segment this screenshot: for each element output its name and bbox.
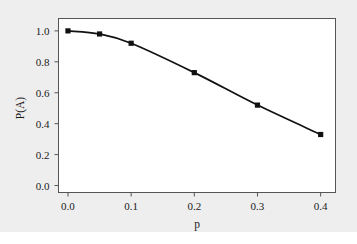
data-point-marker xyxy=(255,103,260,108)
y-axis-tick-labels: 0.00.20.40.60.81.0 xyxy=(36,25,50,192)
plot-panel xyxy=(59,19,336,193)
y-tick-label: 0.8 xyxy=(36,56,50,68)
data-point-marker xyxy=(97,31,102,36)
y-tick-label: 1.0 xyxy=(36,25,50,37)
x-axis-title: p xyxy=(194,218,200,231)
x-tick-label: 0.3 xyxy=(251,200,265,212)
data-point-marker xyxy=(129,41,134,46)
y-axis-ticks xyxy=(55,31,59,186)
x-axis-tick-labels: 0.00.10.20.30.4 xyxy=(61,200,328,212)
line-chart: 0.00.10.20.30.4 0.00.20.40.60.81.0 p P(A… xyxy=(0,0,357,232)
y-tick-label: 0.2 xyxy=(36,149,50,161)
data-point-marker xyxy=(192,70,197,75)
x-tick-label: 0.0 xyxy=(61,200,75,212)
y-tick-label: 0.0 xyxy=(36,180,50,192)
y-axis-title: P(A) xyxy=(14,97,27,120)
x-tick-label: 0.1 xyxy=(124,200,138,212)
x-axis-ticks xyxy=(68,193,321,197)
y-tick-label: 0.4 xyxy=(36,118,50,130)
data-point-marker xyxy=(65,28,70,33)
y-tick-label: 0.6 xyxy=(36,87,50,99)
figure-background: 0.00.10.20.30.4 0.00.20.40.60.81.0 p P(A… xyxy=(0,0,357,232)
data-point-marker xyxy=(318,132,323,137)
x-tick-label: 0.2 xyxy=(187,200,201,212)
x-tick-label: 0.4 xyxy=(314,200,328,212)
